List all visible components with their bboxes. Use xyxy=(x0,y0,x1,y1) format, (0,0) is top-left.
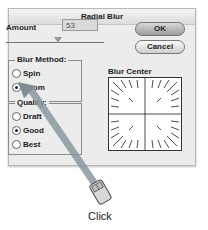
radio-best-label: Best xyxy=(23,140,40,149)
click-annotation-label: Click xyxy=(88,210,112,222)
radio-zoom-label: Zoom xyxy=(23,83,45,92)
radio-zoom[interactable]: Zoom xyxy=(12,83,45,92)
radio-draft[interactable]: Draft xyxy=(12,112,42,121)
radio-spin[interactable]: Spin xyxy=(12,69,40,78)
radio-button-icon[interactable] xyxy=(12,140,21,149)
mouse-icon xyxy=(86,178,116,208)
quality-group: Quality: Draft Good Best xyxy=(8,103,82,155)
radio-button-icon[interactable] xyxy=(12,69,21,78)
radio-best[interactable]: Best xyxy=(12,140,40,149)
radio-good-label: Good xyxy=(23,126,44,135)
radial-lines-icon xyxy=(109,78,181,150)
quality-title: Quality: xyxy=(15,98,49,107)
blur-center-preview[interactable] xyxy=(108,77,182,151)
blur-center-label: Blur Center xyxy=(108,67,152,76)
radio-button-checked-icon[interactable] xyxy=(12,126,21,135)
radio-spin-label: Spin xyxy=(23,69,40,78)
amount-input[interactable]: 53 xyxy=(62,19,98,31)
blur-method-group: Blur Method: Spin Zoom xyxy=(8,60,82,102)
cancel-button[interactable]: Cancel xyxy=(135,40,185,54)
radio-button-checked-icon[interactable] xyxy=(12,83,21,92)
radio-button-icon[interactable] xyxy=(12,112,21,121)
radio-draft-label: Draft xyxy=(23,112,42,121)
amount-slider-thumb[interactable] xyxy=(54,37,62,43)
radio-good[interactable]: Good xyxy=(12,126,44,135)
ok-button[interactable]: OK xyxy=(135,22,185,36)
amount-label: Amount xyxy=(6,23,36,32)
blur-method-title: Blur Method: xyxy=(15,55,68,64)
